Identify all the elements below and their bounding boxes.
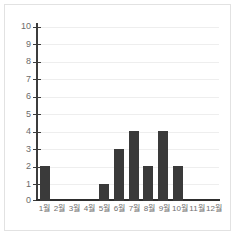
x-axis-label: 1월 — [37, 204, 52, 214]
plot-area: 10 9 8 7 6 5 4 3 2 1 0 1월 2월 3월 4월 5월 6월… — [5, 5, 230, 230]
bar — [158, 131, 168, 201]
x-axis-label: 2월 — [52, 204, 67, 214]
bar — [129, 131, 139, 201]
bar — [143, 166, 153, 201]
bar — [40, 166, 50, 201]
x-axis-label: 7월 — [127, 204, 142, 214]
bar — [99, 184, 109, 201]
x-axis-label: 4월 — [82, 204, 97, 214]
x-axis-label: 11월 — [188, 204, 206, 214]
x-axis-label: 12월 — [205, 204, 223, 214]
x-axis-label: 9월 — [157, 204, 172, 214]
bar — [173, 166, 183, 201]
bar — [114, 149, 124, 201]
x-axis-label: 3월 — [67, 204, 82, 214]
x-axis-label: 5월 — [97, 204, 112, 214]
x-axis-label: 8월 — [142, 204, 157, 214]
bars-layer — [5, 5, 230, 201]
chart-container: 10 9 8 7 6 5 4 3 2 1 0 1월 2월 3월 4월 5월 6월… — [4, 4, 231, 231]
x-axis-label: 6월 — [112, 204, 127, 214]
x-axis-label: 10월 — [171, 204, 189, 214]
